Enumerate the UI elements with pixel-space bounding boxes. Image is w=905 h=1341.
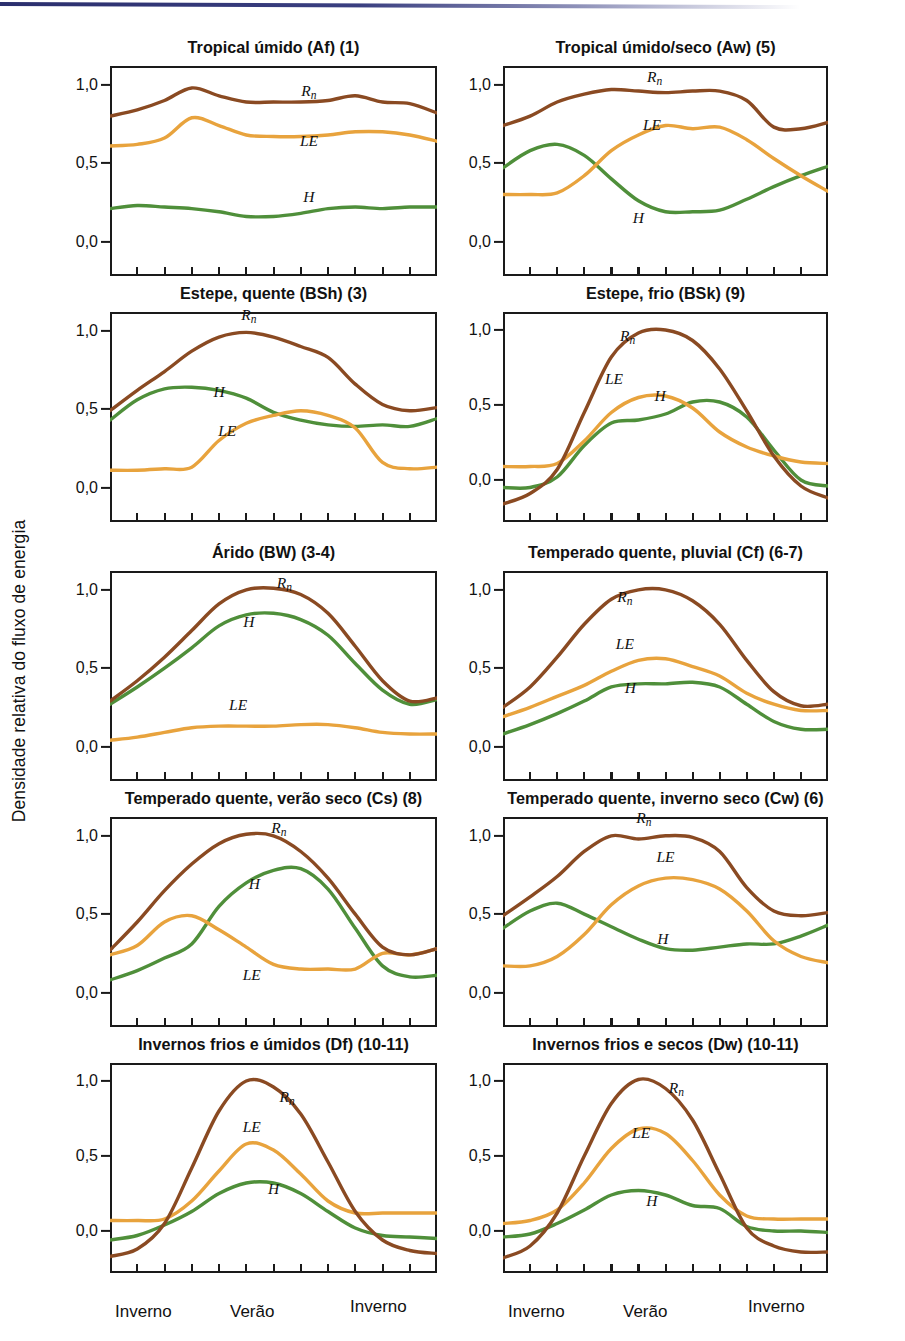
curve-layer: RnLEH (503, 1063, 828, 1273)
series-label-h: H (632, 209, 645, 226)
curve-layer: RnLEH (110, 571, 437, 781)
x-axis-season-label: Verão (230, 1302, 274, 1322)
series-label-h: H (248, 875, 261, 892)
y-axis-tick-label: 0,0 (58, 738, 98, 756)
series-curve-le (503, 878, 828, 967)
climate-panel: Invernos frios e secos (Dw) (10-11)1,00,… (503, 1035, 828, 1277)
panel-title: Temperado quente, inverno seco (Cw) (6) (503, 789, 828, 808)
series-curve-le (110, 724, 437, 740)
y-axis-tick-label: 0,0 (451, 738, 491, 756)
x-axis-season-label: Inverno (115, 1302, 172, 1322)
panel-title: Invernos frios e úmidos (Df) (10-11) (110, 1035, 437, 1054)
y-axis-tick-label: 1,0 (451, 1072, 491, 1090)
series-label-h: H (624, 679, 637, 696)
series-label-rn: Rn (635, 809, 651, 828)
y-axis-label: Densidade relativa do fluxo de energia (0, 0, 39, 1341)
x-axis-season-label: Inverno (350, 1297, 407, 1317)
climate-panel: Invernos frios e úmidos (Df) (10-11)1,00… (110, 1035, 437, 1277)
y-axis-label-text: Densidade relativa do fluxo de energia (9, 519, 30, 821)
series-curve-h (110, 205, 437, 216)
series-label-h: H (267, 1180, 280, 1197)
series-label-rn: Rn (300, 82, 316, 101)
y-axis-tick-label: 1,0 (58, 1072, 98, 1090)
plot-area: 1,00,50,0RnLEH (503, 1063, 828, 1273)
y-axis-tick-label: 0,0 (451, 471, 491, 489)
series-curve-le (110, 117, 437, 146)
y-axis-tick-label: 0,5 (451, 1147, 491, 1165)
panel-title: Árido (BW) (3-4) (110, 543, 437, 562)
x-axis-season-label: Inverno (508, 1302, 565, 1322)
series-label-rn: Rn (240, 306, 256, 325)
series-curve-h (110, 613, 437, 705)
series-label-le: LE (604, 370, 624, 387)
climate-panel: Tropical úmido (Af) (1)1,00,50,0RnLEH (110, 38, 437, 280)
curve-layer: RnLEH (503, 66, 828, 276)
series-curve-rn (110, 88, 437, 116)
panel-title: Tropical úmido (Af) (1) (110, 38, 437, 57)
series-label-h: H (656, 930, 669, 947)
series-curve-le (503, 395, 828, 467)
climate-panel: Temperado quente, pluvial (Cf) (6-7)1,00… (503, 543, 828, 785)
y-axis-tick-label: 1,0 (58, 827, 98, 845)
climate-panel: Temperado quente, verão seco (Cs) (8)1,0… (110, 789, 437, 1031)
panel-title: Tropical úmido/seco (Aw) (5) (503, 38, 828, 57)
panel-title: Estepe, quente (BSh) (3) (110, 284, 437, 303)
series-label-le: LE (615, 635, 635, 652)
series-label-rn: Rn (270, 819, 286, 838)
y-axis-tick-label: 0,5 (58, 1147, 98, 1165)
series-curve-rn (110, 1079, 437, 1256)
series-label-h: H (645, 1192, 658, 1209)
y-axis-tick-label: 1,0 (58, 76, 98, 94)
plot-area: 1,00,50,0RnLEH (110, 312, 437, 522)
curve-layer: RnLEH (110, 1063, 437, 1273)
series-label-rn: Rn (276, 574, 292, 593)
scan-artifact-line (0, 2, 800, 9)
climate-panel: Temperado quente, inverno seco (Cw) (6)1… (503, 789, 828, 1031)
series-label-rn: Rn (668, 1079, 684, 1098)
series-curve-h (503, 682, 828, 734)
curve-layer: RnLEH (503, 817, 828, 1027)
plot-area: 1,00,50,0RnLEH (110, 571, 437, 781)
series-label-rn: Rn (619, 327, 635, 346)
curve-layer: RnLEH (503, 312, 828, 522)
series-curve-rn (503, 589, 828, 708)
series-curve-rn (110, 332, 437, 410)
series-label-le: LE (299, 132, 319, 149)
series-label-le: LE (228, 696, 248, 713)
panel-title: Estepe, frio (BSk) (9) (503, 284, 828, 303)
x-axis-season-label: Inverno (748, 1297, 805, 1317)
y-axis-tick-label: 0,5 (451, 659, 491, 677)
y-axis-tick-label: 0,5 (58, 905, 98, 923)
y-axis-tick-label: 0,5 (451, 905, 491, 923)
curve-layer: RnLEH (503, 571, 828, 781)
y-axis-tick-label: 0,0 (451, 984, 491, 1002)
curve-layer: RnLEH (110, 312, 437, 522)
series-label-rn: Rn (279, 1088, 295, 1107)
series-label-le: LE (655, 848, 675, 865)
curve-layer: RnLEH (110, 817, 437, 1027)
series-curve-h (503, 144, 828, 212)
panel-title: Invernos frios e secos (Dw) (10-11) (503, 1035, 828, 1054)
plot-area: 1,00,50,0RnLEH (503, 66, 828, 276)
plot-area: 1,00,50,0RnLEH (110, 817, 437, 1027)
y-axis-tick-label: 0,5 (58, 659, 98, 677)
series-label-le: LE (242, 1118, 262, 1135)
x-axis-season-label: Verão (623, 1302, 667, 1322)
series-curve-le (110, 411, 437, 471)
curve-layer: RnLEH (110, 66, 437, 276)
y-axis-tick-label: 1,0 (58, 322, 98, 340)
plot-area: 1,00,50,0RnLEH (503, 571, 828, 781)
series-label-le: LE (242, 966, 262, 983)
y-axis-tick-label: 1,0 (451, 76, 491, 94)
series-label-rn: Rn (646, 68, 662, 87)
series-label-h: H (302, 188, 315, 205)
y-axis-tick-label: 1,0 (451, 321, 491, 339)
y-axis-tick-label: 0,5 (451, 396, 491, 414)
y-axis-tick-label: 0,5 (58, 154, 98, 172)
y-axis-tick-label: 1,0 (451, 827, 491, 845)
climate-panel: Tropical úmido/seco (Aw) (5)1,00,50,0RnL… (503, 38, 828, 280)
plot-area: 1,00,50,0RnLEH (503, 817, 828, 1027)
y-axis-tick-label: 1,0 (58, 581, 98, 599)
series-label-le: LE (217, 422, 237, 439)
climate-panel: Estepe, frio (BSk) (9)1,00,50,0RnLEH (503, 284, 828, 526)
